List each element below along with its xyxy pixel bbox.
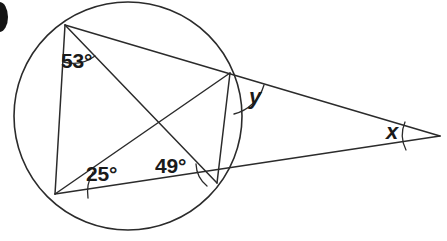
secant-line-a-to-e bbox=[65, 25, 440, 136]
geometry-canvas bbox=[0, 0, 447, 241]
angle-label-53: 53° bbox=[61, 50, 92, 71]
geometry-figure: 53° 25° 49° y x bbox=[0, 0, 447, 241]
main-circle bbox=[14, 2, 242, 230]
angle-label-x: x bbox=[386, 121, 398, 143]
angle-label-y: y bbox=[249, 86, 261, 108]
angle-label-25: 25° bbox=[86, 163, 117, 184]
diagonal-line-d-to-b bbox=[55, 73, 230, 194]
chord-line-b-to-c bbox=[217, 73, 230, 183]
angle-label-49: 49° bbox=[155, 155, 186, 176]
